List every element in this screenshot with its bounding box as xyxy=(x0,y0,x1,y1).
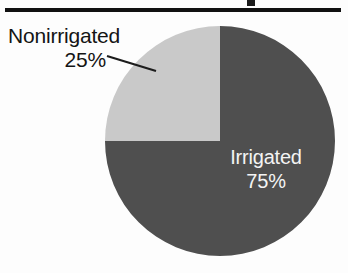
irrigated-label-percent: 75% xyxy=(205,170,327,194)
nonirrigated-slice-label: Nonirrigated 25% xyxy=(2,24,120,73)
nonirrigated-leader-line xyxy=(106,52,158,76)
clipped-title-descender xyxy=(247,0,255,6)
pie-slice-nonirrigated xyxy=(105,26,220,141)
pie-chart-figure: Nonirrigated 25% Irrigated 75% xyxy=(0,0,348,273)
irrigated-slice-label: Irrigated 75% xyxy=(205,146,327,193)
title-divider-rule xyxy=(5,8,341,12)
nonirrigated-label-percent: 25% xyxy=(2,48,120,72)
nonirrigated-label-name: Nonirrigated xyxy=(2,24,120,48)
irrigated-label-name: Irrigated xyxy=(205,146,327,170)
